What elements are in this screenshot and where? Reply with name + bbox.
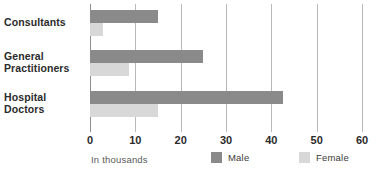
legend-label-female: Female [316, 152, 349, 163]
category-label-general-practitioners: GeneralPractitioners [4, 50, 86, 75]
plot-area [90, 4, 362, 132]
x-tick-label-20: 20 [166, 134, 196, 146]
category-label-line: Consultants [4, 16, 86, 29]
gridline-60 [362, 4, 363, 132]
legend-swatch-male-icon [211, 152, 222, 163]
x-tick-label-50: 50 [302, 134, 332, 146]
gridline-20 [181, 4, 182, 132]
x-tick-label-0: 0 [75, 134, 105, 146]
bar-general-practitioners-male [90, 50, 203, 63]
x-tick-label-40: 40 [256, 134, 286, 146]
bar-general-practitioners-female [90, 63, 129, 76]
legend-item-male: Male [211, 152, 249, 163]
legend-item-female: Female [299, 152, 349, 163]
bar-hospital-doctors-male [90, 91, 283, 104]
gridline-40 [271, 4, 272, 132]
category-label-consultants: Consultants [4, 16, 86, 29]
x-tick-label-60: 60 [347, 134, 377, 146]
x-tick-label-30: 30 [211, 134, 241, 146]
x-axis-caption: In thousands [91, 154, 148, 165]
category-label-line: Doctors [4, 103, 86, 116]
category-label-hospital-doctors: HospitalDoctors [4, 91, 86, 116]
legend-swatch-female-icon [299, 152, 310, 163]
category-label-line: Hospital [4, 91, 86, 104]
category-label-line: Practitioners [4, 62, 86, 75]
bar-consultants-male [90, 10, 158, 23]
bar-consultants-female [90, 23, 103, 36]
gridline-30 [226, 4, 227, 132]
gridline-50 [317, 4, 318, 132]
x-tick-label-10: 10 [120, 134, 150, 146]
legend-label-male: Male [228, 152, 249, 163]
bar-hospital-doctors-female [90, 104, 158, 117]
bar-chart: Consultants GeneralPractitioners Hospita… [0, 0, 384, 174]
chart-footer: In thousands Male Female [0, 152, 384, 172]
category-label-line: General [4, 50, 86, 63]
